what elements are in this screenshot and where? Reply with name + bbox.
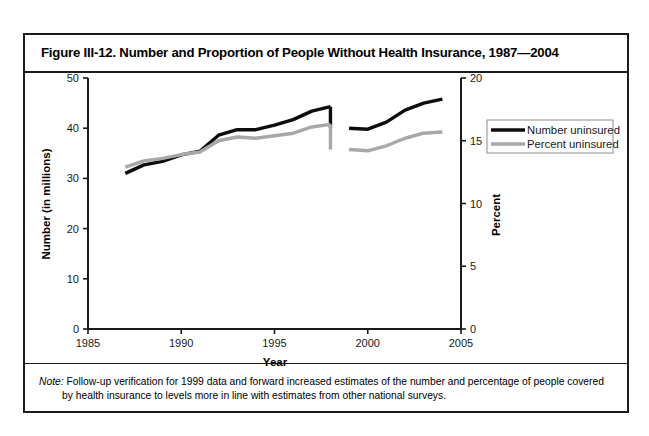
figure-note: Note: Follow-up verification for 1999 da… — [39, 375, 615, 403]
note-line-2: by health insurance to levels more in li… — [39, 389, 615, 403]
figure-frame: Figure III-12. Number and Proportion of … — [23, 33, 629, 413]
note-divider — [25, 363, 627, 365]
figure-title: Figure III-12. Number and Proportion of … — [41, 45, 559, 60]
title-divider — [25, 71, 627, 73]
note-label: Note: — [39, 376, 64, 387]
note-line-1: Follow-up verification for 1999 data and… — [64, 376, 604, 387]
